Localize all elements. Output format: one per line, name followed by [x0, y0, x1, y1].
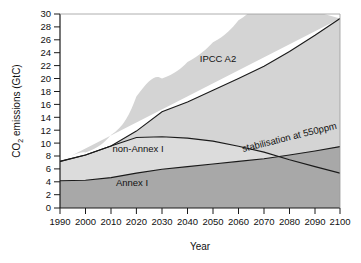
annex-i-label: Annex I — [116, 177, 148, 188]
x-axis-title: Year — [190, 241, 211, 252]
y-tick-label: 18 — [40, 86, 51, 97]
x-tick-label: 2000 — [75, 216, 96, 227]
x-tick-label: 2100 — [329, 216, 350, 227]
y-axis-title-post: emissions (GtC) — [11, 64, 22, 138]
y-tick-label: 20 — [40, 73, 51, 84]
emissions-area-chart: 30 28 26 24 22 20 18 16 14 12 10 8 6 4 2… — [0, 0, 361, 263]
y-tick-label: 30 — [40, 8, 51, 19]
y-tick-label: 26 — [40, 34, 51, 45]
y-tick-label: 8 — [46, 150, 51, 161]
x-tick-label: 2040 — [177, 216, 198, 227]
chart-figure: 30 28 26 24 22 20 18 16 14 12 10 8 6 4 2… — [0, 0, 361, 263]
x-tick-label: 2050 — [202, 216, 223, 227]
y-tick-label: 6 — [46, 163, 51, 174]
y-tick-label: 12 — [40, 125, 51, 136]
x-tick-label: 2010 — [100, 216, 121, 227]
y-tick-label: 10 — [40, 138, 51, 149]
x-tick-label: 2020 — [126, 216, 147, 227]
x-tick-label: 1990 — [49, 216, 70, 227]
x-tick-label: 2070 — [253, 216, 274, 227]
y-tick-label: 28 — [40, 21, 51, 32]
y-tick-label: 14 — [40, 112, 51, 123]
non-annex-i-label: non-Annex I — [112, 143, 163, 154]
ipcc-a2-label: IPCC A2 — [200, 53, 236, 64]
y-tick-label: 0 — [46, 202, 51, 213]
x-tick-label: 2030 — [151, 216, 172, 227]
x-tick-label: 2090 — [304, 216, 325, 227]
y-tick-label: 24 — [40, 47, 51, 58]
x-tick-label: 2060 — [228, 216, 249, 227]
y-tick-label: 16 — [40, 99, 51, 110]
x-tick-label: 2080 — [279, 216, 300, 227]
y-axis-title-pre: CO — [11, 142, 22, 157]
y-tick-label: 2 — [46, 189, 51, 200]
y-tick-label: 22 — [40, 60, 51, 71]
y-tick-label: 4 — [46, 176, 51, 187]
svg-text:CO2 emissions (GtC): CO2 emissions (GtC) — [11, 64, 24, 157]
y-axis-title: CO2 emissions (GtC) — [11, 64, 24, 157]
